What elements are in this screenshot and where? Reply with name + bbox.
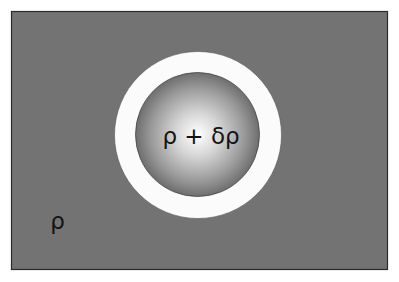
inner-density-label: ρ + δρ [162,123,239,149]
density-perturbation-diagram: ρ + δρ ρ [0,0,399,282]
background-density-label: ρ [50,208,65,234]
